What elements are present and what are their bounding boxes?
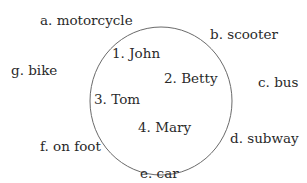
option-bike: g. bike [11, 64, 57, 78]
person-mary: 4. Mary [138, 121, 191, 135]
option-subway: d. subway [230, 132, 299, 146]
person-tom: 3. Tom [94, 93, 140, 107]
option-motorcycle: a. motorcycle [40, 14, 133, 28]
option-on-foot: f. on foot [40, 140, 101, 154]
option-car: e. car [140, 167, 179, 181]
person-betty: 2. Betty [164, 72, 218, 86]
option-scooter: b. scooter [210, 28, 278, 42]
person-john: 1. John [112, 47, 160, 61]
option-bus: c. bus [258, 76, 298, 90]
